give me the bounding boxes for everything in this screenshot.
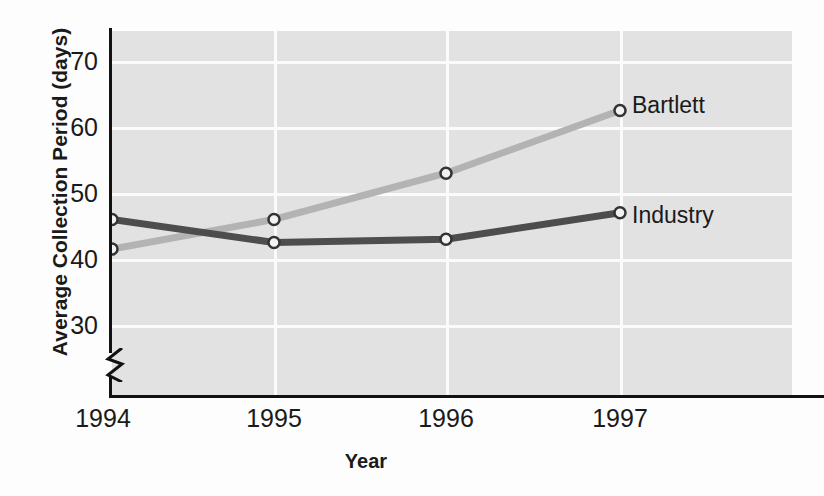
data-point-industry-1997 (615, 207, 626, 218)
x-tick-label-1997: 1997 (575, 404, 665, 433)
x-tick-label-1995: 1995 (229, 404, 319, 433)
x-tick-label-1994: 1994 (58, 404, 148, 433)
data-point-industry-1996 (441, 234, 452, 245)
x-axis-line (109, 395, 824, 398)
data-point-industry-1995 (269, 237, 280, 248)
y-axis-title: Average Collection Period (days) (48, 0, 72, 402)
x-axis-title: Year (112, 450, 620, 473)
axis-break-icon (100, 348, 126, 382)
data-point-industry-1994 (112, 214, 118, 225)
data-point-bartlett-1996 (441, 168, 452, 179)
data-point-bartlett-1997 (615, 105, 626, 116)
x-tick-label-1996: 1996 (401, 404, 491, 433)
data-point-bartlett-1995 (269, 214, 280, 225)
series-label-bartlett: Bartlett (632, 92, 705, 119)
chart-container: 70 60 50 40 30 1994 1995 1996 1997 Avera… (0, 0, 824, 496)
data-point-bartlett-1994 (112, 244, 118, 255)
series-label-industry: Industry (632, 202, 714, 229)
y-axis-line (109, 28, 112, 353)
